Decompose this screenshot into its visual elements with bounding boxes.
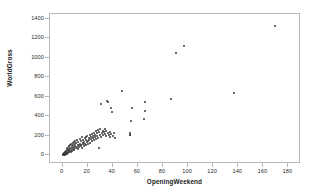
y-axis-tick-label: 1400 bbox=[31, 15, 44, 21]
y-axis-tick-label: 800 bbox=[34, 73, 44, 79]
scatter-point bbox=[110, 107, 112, 109]
y-axis-title-wrapper: WorldGross bbox=[6, 38, 18, 98]
x-axis-tick-mark bbox=[237, 163, 238, 167]
scatter-point bbox=[144, 110, 146, 112]
y-axis-tick-label: 600 bbox=[34, 93, 44, 99]
scatter-point bbox=[98, 147, 100, 149]
x-axis-tick-label: 120 bbox=[200, 168, 224, 174]
scatter-point bbox=[121, 90, 123, 92]
x-axis-tick-mark bbox=[162, 163, 163, 167]
scatter-point bbox=[100, 136, 102, 138]
scatter-point bbox=[111, 111, 113, 113]
scatter-point bbox=[100, 103, 102, 105]
x-axis-tick-label: 40 bbox=[100, 168, 124, 174]
x-axis-tick-label: 160 bbox=[250, 168, 274, 174]
scatter-point bbox=[129, 134, 131, 136]
scatter-plot-screenshot: 0200400600800100012001400 WorldGross Ope… bbox=[0, 0, 321, 196]
scatter-point bbox=[144, 101, 146, 103]
x-axis-tick-label: 0 bbox=[50, 168, 74, 174]
x-axis-tick-label: 60 bbox=[125, 168, 149, 174]
x-axis-tick-mark bbox=[87, 163, 88, 167]
scatter-point bbox=[107, 101, 109, 103]
scatter-point bbox=[96, 132, 98, 134]
x-axis-tick-label: 100 bbox=[175, 168, 199, 174]
x-axis-tick-mark bbox=[262, 163, 263, 167]
scatter-point bbox=[274, 25, 276, 27]
y-axis-tick-mark bbox=[45, 96, 49, 97]
y-axis-labels: 0200400600800100012001400 bbox=[0, 0, 44, 196]
y-axis-tick-label: 400 bbox=[34, 112, 44, 118]
scatter-points-layer bbox=[50, 14, 299, 162]
scatter-point bbox=[183, 45, 185, 47]
y-axis-tick-label: 1200 bbox=[31, 34, 44, 40]
scatter-point bbox=[170, 98, 172, 100]
scatter-point bbox=[109, 136, 111, 138]
y-axis-tick-mark bbox=[45, 76, 49, 77]
scatter-point bbox=[113, 132, 115, 134]
x-axis-tick-mark bbox=[287, 163, 288, 167]
plot-area bbox=[49, 13, 300, 163]
scatter-point bbox=[114, 137, 116, 139]
scatter-point bbox=[143, 118, 145, 120]
x-axis-tick-mark bbox=[187, 163, 188, 167]
scatter-point bbox=[175, 52, 177, 54]
y-axis-tick-mark bbox=[45, 18, 49, 19]
x-axis-tick-mark bbox=[137, 163, 138, 167]
scatter-point bbox=[131, 107, 133, 109]
x-axis-title: OpeningWeekend bbox=[49, 178, 300, 185]
y-axis-tick-mark bbox=[45, 57, 49, 58]
scatter-point bbox=[130, 120, 132, 122]
y-axis-tick-mark bbox=[45, 115, 49, 116]
y-axis-tick-mark bbox=[45, 37, 49, 38]
y-axis-tick-label: 0 bbox=[41, 151, 44, 157]
x-axis-tick-mark bbox=[212, 163, 213, 167]
scatter-point bbox=[81, 147, 83, 149]
x-axis-tick-mark bbox=[112, 163, 113, 167]
x-axis-tick-mark bbox=[62, 163, 63, 167]
x-axis-tick-label: 140 bbox=[225, 168, 249, 174]
scatter-point bbox=[98, 131, 100, 133]
y-axis-title: WorldGross bbox=[6, 38, 13, 98]
scatter-point bbox=[105, 135, 107, 137]
y-axis-tick-label: 1000 bbox=[31, 54, 44, 60]
y-axis-tick-label: 200 bbox=[34, 132, 44, 138]
x-axis-tick-label: 20 bbox=[75, 168, 99, 174]
x-axis-tick-label: 180 bbox=[275, 168, 299, 174]
y-axis-tick-mark bbox=[45, 135, 49, 136]
scatter-point bbox=[233, 92, 235, 94]
x-axis-tick-label: 80 bbox=[150, 168, 174, 174]
y-axis-tick-mark bbox=[45, 154, 49, 155]
